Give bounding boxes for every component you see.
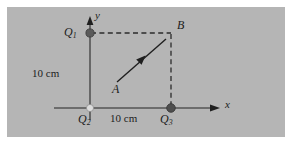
- label-q2: Q2: [78, 113, 91, 127]
- x-axis: [54, 104, 220, 111]
- label-q1-text: Q: [64, 25, 73, 39]
- figure-container: y x Q1 Q2 Q3 B A 10 cm 10 cm: [0, 0, 292, 144]
- label-q1-subscript: 1: [73, 31, 77, 40]
- x-axis-label: x: [225, 99, 230, 110]
- marker-q3: [167, 104, 176, 113]
- vector-a-arrow: [117, 39, 166, 82]
- label-vector-a: A: [112, 83, 119, 95]
- dimension-label-horizontal: 10 cm: [110, 113, 137, 124]
- label-q3: Q3: [160, 113, 173, 127]
- label-q3-subscript: 3: [169, 118, 173, 127]
- label-q1: Q1: [64, 26, 77, 40]
- label-q2-text: Q: [78, 112, 87, 126]
- y-axis-label: y: [95, 10, 100, 21]
- dimension-label-vertical: 10 cm: [32, 68, 59, 79]
- label-q3-text: Q: [160, 112, 169, 126]
- label-point-b: B: [177, 19, 184, 31]
- marker-q2: [86, 104, 93, 111]
- marker-q1: [86, 29, 94, 37]
- label-q2-subscript: 2: [87, 118, 91, 127]
